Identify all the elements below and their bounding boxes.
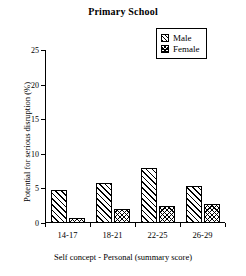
x-axis-title: Self concept - Personal (summary score) — [0, 252, 246, 262]
bar-female-22-25 — [159, 206, 175, 223]
x-axis-category-label: 26-29 — [193, 230, 213, 240]
chart-container: Primary School Male Female Potential for… — [0, 0, 246, 276]
y-axis-line — [45, 50, 46, 223]
y-axis-tick — [41, 119, 45, 120]
bar-female-14-17 — [69, 218, 85, 223]
chart-title: Primary School — [0, 6, 246, 17]
plot-area: 051015202514-1718-2122-2526-29 — [45, 50, 225, 223]
y-axis-tick-label: 20 — [31, 80, 39, 89]
x-axis-tick — [135, 223, 136, 227]
y-axis-tick-label: 5 — [35, 184, 39, 193]
bar-male-18-21 — [96, 183, 112, 223]
y-axis-tick — [41, 50, 45, 51]
y-axis-tick-label: 15 — [31, 115, 39, 124]
y-axis-tick-label: 25 — [31, 46, 39, 55]
legend-item-male: Male — [161, 33, 200, 43]
x-axis-tick — [225, 223, 226, 227]
y-axis-title-wrap: Potential for serious disruption (%) — [8, 50, 22, 223]
hatch-diagonal-icon — [161, 34, 169, 42]
bar-male-26-29 — [186, 186, 202, 223]
y-axis-tick-label: 10 — [31, 149, 39, 158]
x-axis-tick — [90, 223, 91, 227]
y-axis-tick — [41, 85, 45, 86]
x-axis-tick — [45, 223, 46, 227]
bar-female-26-29 — [204, 204, 220, 223]
bar-male-14-17 — [51, 190, 67, 223]
bar-female-18-21 — [114, 209, 130, 223]
y-axis-tick-label: 0 — [35, 219, 39, 228]
x-axis-category-label: 22-25 — [148, 230, 168, 240]
bar-male-22-25 — [141, 168, 157, 223]
y-axis-tick — [41, 188, 45, 189]
x-axis-category-label: 18-21 — [103, 230, 123, 240]
y-axis-tick — [41, 154, 45, 155]
x-axis-category-label: 14-17 — [58, 230, 78, 240]
x-axis-tick — [180, 223, 181, 227]
legend-label-male: Male — [173, 33, 192, 43]
